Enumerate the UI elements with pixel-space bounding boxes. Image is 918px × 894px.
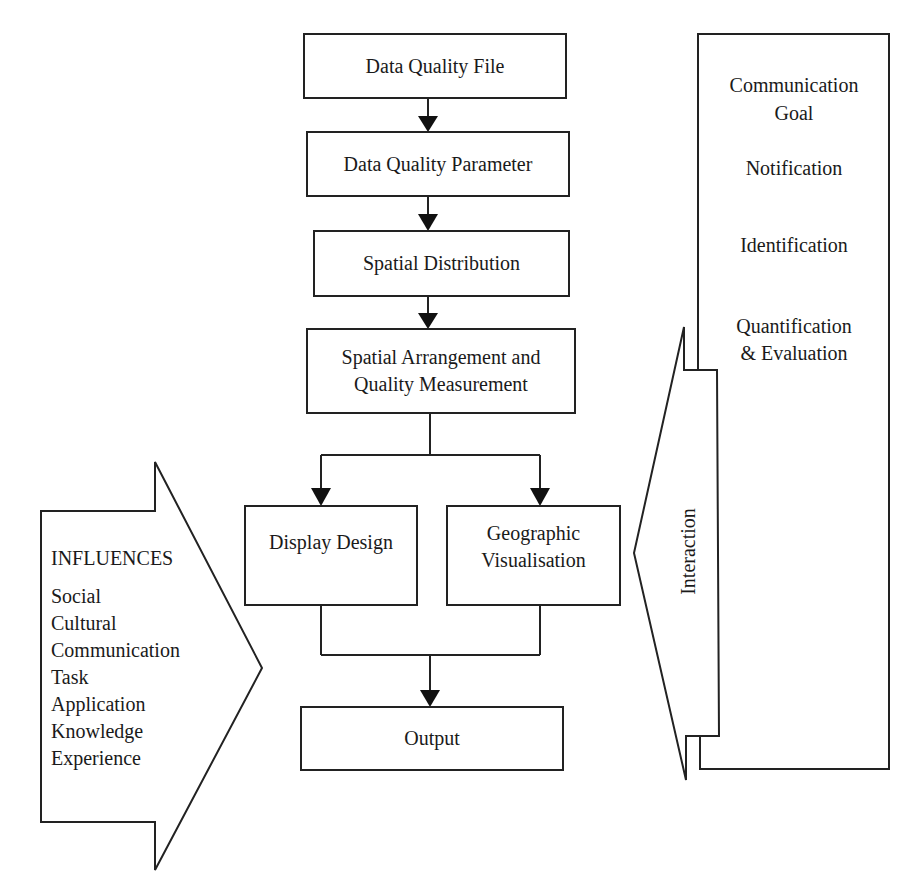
communication-goal-quantification-line1: Quantification bbox=[700, 313, 888, 340]
influences-item-application: Application bbox=[51, 691, 145, 718]
box-data-quality-file: Data Quality File bbox=[303, 33, 567, 99]
communication-goal-notification: Notification bbox=[700, 155, 888, 182]
influences-item-knowledge: Knowledge bbox=[51, 718, 143, 745]
box-geographic-visualisation: Geographic Visualisation bbox=[446, 505, 621, 606]
box-output: Output bbox=[300, 706, 564, 771]
arrowhead-icon bbox=[530, 488, 550, 506]
communication-goal-identification: Identification bbox=[700, 232, 888, 259]
box-label: Data Quality Parameter bbox=[344, 151, 533, 178]
arrowhead-icon bbox=[418, 116, 438, 132]
communication-goal-quantification-line2: & Evaluation bbox=[700, 340, 888, 367]
box-label-line1: Spatial Arrangement and bbox=[342, 344, 541, 371]
box-label-line1: Geographic bbox=[487, 520, 580, 547]
box-label: Spatial Distribution bbox=[363, 250, 520, 277]
box-spatial-arrangement: Spatial Arrangement and Quality Measurem… bbox=[306, 328, 576, 414]
box-label: Data Quality File bbox=[366, 53, 505, 80]
communication-goal-panel-shape bbox=[698, 34, 889, 769]
influences-item-communication: Communication bbox=[51, 637, 180, 664]
interaction-label: Interaction bbox=[675, 502, 702, 602]
box-label-line2: Visualisation bbox=[481, 547, 585, 574]
arrowhead-icon bbox=[418, 313, 438, 329]
box-data-quality-parameter: Data Quality Parameter bbox=[306, 131, 570, 197]
box-display-design: Display Design bbox=[244, 505, 418, 606]
communication-goal-title-line1: Communication bbox=[700, 72, 888, 99]
influences-item-task: Task bbox=[51, 664, 88, 691]
arrowhead-icon bbox=[420, 690, 440, 707]
communication-goal-title-line2: Goal bbox=[700, 100, 888, 127]
influences-item-cultural: Cultural bbox=[51, 610, 117, 637]
influences-item-social: Social bbox=[51, 583, 101, 610]
arrowhead-icon bbox=[311, 488, 331, 506]
box-label-line2: Quality Measurement bbox=[354, 371, 528, 398]
box-label: Display Design bbox=[269, 529, 393, 556]
arrowhead-icon bbox=[418, 214, 438, 231]
box-spatial-distribution: Spatial Distribution bbox=[313, 230, 570, 297]
box-label: Output bbox=[404, 725, 460, 752]
influences-title: INFLUENCES bbox=[51, 545, 173, 572]
influences-item-experience: Experience bbox=[51, 745, 141, 772]
